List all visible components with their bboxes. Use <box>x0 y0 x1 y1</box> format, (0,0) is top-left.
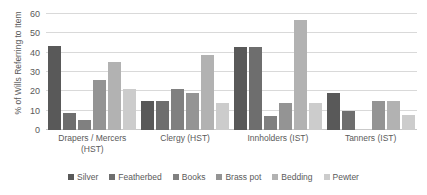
bar[interactable] <box>63 113 76 130</box>
bar[interactable] <box>402 115 415 130</box>
y-axis-tick-label: 40 <box>30 48 40 57</box>
bar[interactable] <box>387 101 400 130</box>
legend-item[interactable]: Books <box>173 172 206 182</box>
bar[interactable] <box>156 101 169 130</box>
bar-slot <box>201 14 214 130</box>
bar-slot <box>294 14 307 130</box>
bar[interactable] <box>327 93 340 130</box>
bar-group <box>324 14 417 130</box>
y-axis-tick-label: 50 <box>30 29 40 38</box>
bar[interactable] <box>201 55 214 130</box>
chart-legend: SilverFeatherbedBooksBrass potBeddingPew… <box>0 172 427 182</box>
bar[interactable] <box>372 101 385 130</box>
bar[interactable] <box>264 116 277 130</box>
bar-slot <box>279 14 292 130</box>
bar-slot <box>264 14 277 130</box>
bar-groups <box>46 14 417 130</box>
bar-slot <box>186 14 199 130</box>
bar[interactable] <box>216 103 229 130</box>
bar-group <box>46 14 139 130</box>
legend-label: Bedding <box>281 172 312 182</box>
bar-slot <box>216 14 229 130</box>
legend-swatch-icon <box>324 174 330 180</box>
legend-swatch-icon <box>173 174 179 180</box>
legend-label: Pewter <box>333 172 359 182</box>
legend-item[interactable]: Bedding <box>272 172 312 182</box>
bar[interactable] <box>108 62 121 130</box>
legend-label: Silver <box>77 172 98 182</box>
bar-slot <box>141 14 154 130</box>
bar[interactable] <box>93 80 106 130</box>
y-axis-tick-label: 60 <box>30 10 40 19</box>
x-axis-category-label: Clergy (HST) <box>139 133 232 155</box>
bar[interactable] <box>234 47 247 130</box>
legend-item[interactable]: Brass pot <box>216 172 261 182</box>
legend-label: Books <box>182 172 206 182</box>
bar-slot <box>327 14 340 130</box>
y-axis-tick-label: 0 <box>35 126 40 135</box>
x-axis-category-label: Drapers / Mercers (HST) <box>46 133 139 155</box>
bar-slot <box>123 14 136 130</box>
legend-swatch-icon <box>109 174 115 180</box>
y-axis-tick-label: 20 <box>30 87 40 96</box>
bar-slot <box>93 14 106 130</box>
bar[interactable] <box>279 103 292 130</box>
y-axis-tick-label: 30 <box>30 68 40 77</box>
bar-slot <box>171 14 184 130</box>
bar[interactable] <box>171 89 184 130</box>
bar-group <box>139 14 232 130</box>
bar-slot <box>309 14 322 130</box>
bar-slot <box>108 14 121 130</box>
x-axis-category-label: Innholders (IST) <box>232 133 325 155</box>
bar-slot <box>402 14 415 130</box>
plot-area <box>46 14 417 130</box>
bar[interactable] <box>294 20 307 130</box>
bar-slot <box>63 14 76 130</box>
y-axis-tick-label: 10 <box>30 106 40 115</box>
bar[interactable] <box>48 46 61 130</box>
legend-swatch-icon <box>68 174 74 180</box>
legend-swatch-icon <box>216 174 222 180</box>
legend-swatch-icon <box>272 174 278 180</box>
y-axis-tick-labels: 0102030405060 <box>14 14 44 130</box>
bar-slot <box>234 14 247 130</box>
legend-item[interactable]: Silver <box>68 172 98 182</box>
bar[interactable] <box>249 47 262 130</box>
bar-slot <box>342 14 355 130</box>
bar[interactable] <box>342 111 355 130</box>
bar-slot <box>78 14 91 130</box>
bar-slot <box>357 14 370 130</box>
bar[interactable] <box>78 120 91 130</box>
bar[interactable] <box>186 93 199 130</box>
legend-item[interactable]: Pewter <box>324 172 359 182</box>
legend-label: Brass pot <box>225 172 261 182</box>
x-axis-category-labels: Drapers / Mercers (HST)Clergy (HST)Innho… <box>46 133 417 155</box>
bar[interactable] <box>123 89 136 130</box>
bar-chart: % of Wills Referring to Item 01020304050… <box>0 0 427 195</box>
x-axis-category-label: Tanners (IST) <box>324 133 417 155</box>
bar-slot <box>156 14 169 130</box>
bar-slot <box>387 14 400 130</box>
bar-slot <box>372 14 385 130</box>
legend-label: Featherbed <box>118 172 161 182</box>
bar-group <box>232 14 325 130</box>
bar-slot <box>249 14 262 130</box>
bar[interactable] <box>309 103 322 130</box>
legend-item[interactable]: Featherbed <box>109 172 161 182</box>
bar[interactable] <box>141 101 154 130</box>
bar-slot <box>48 14 61 130</box>
